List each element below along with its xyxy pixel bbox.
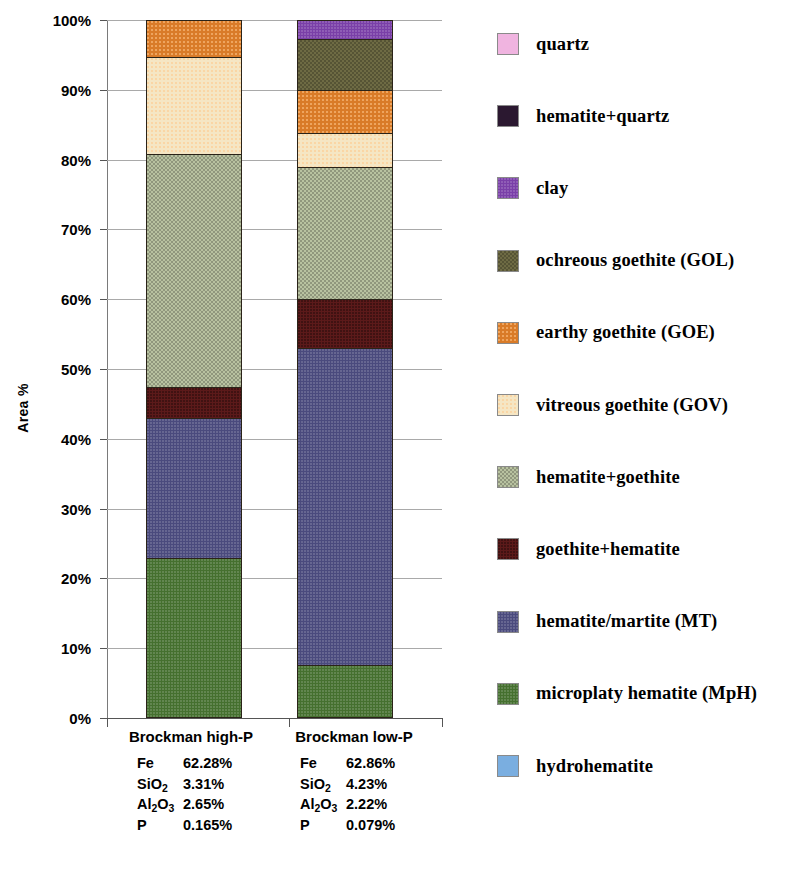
legend-item[interactable]: clay [497, 175, 568, 201]
bar-segment[interactable] [146, 418, 242, 558]
swatch-texture [498, 467, 518, 487]
y-tick-label: 100% [21, 12, 91, 29]
assay-row: Al2O32.65% [103, 794, 279, 815]
legend-item[interactable]: hematite+quartz [497, 103, 669, 129]
assay-symbol: SiO2 [300, 774, 346, 795]
legend-item[interactable]: goethite+hematite [497, 536, 680, 562]
legend-label: microplaty hematite (MpH) [536, 683, 757, 704]
y-axis-tick [100, 718, 107, 719]
y-tick-label: 40% [21, 430, 91, 447]
category-label: Brockman low-P [266, 728, 442, 745]
bar-segment[interactable] [297, 20, 393, 39]
assay-value: 3.31% [183, 774, 245, 795]
legend-label: goethite+hematite [536, 539, 680, 560]
segment-texture [147, 155, 241, 387]
y-axis-tick [100, 299, 107, 300]
assay-row: Al2O32.22% [266, 794, 442, 815]
segment-texture [298, 40, 392, 90]
segment-texture [147, 559, 241, 717]
legend-swatch-icon [497, 322, 519, 344]
y-tick-label: 0% [21, 710, 91, 727]
legend-label: hematite+goethite [536, 467, 680, 488]
assay-symbol: SiO2 [137, 774, 183, 795]
swatch-texture [498, 395, 518, 415]
bar-segment[interactable] [146, 154, 242, 387]
assay-symbol: Fe [137, 753, 183, 774]
swatch-texture [498, 251, 518, 271]
segment-texture [298, 134, 392, 167]
bar-segment[interactable] [146, 558, 242, 718]
swatch-texture [498, 178, 518, 198]
legend-item[interactable]: earthy goethite (GOE) [497, 320, 715, 346]
bar-segment[interactable] [297, 90, 393, 133]
y-axis-tick [100, 229, 107, 230]
legend-swatch-icon [497, 683, 519, 705]
swatch-texture [498, 323, 518, 343]
assay-value: 2.22% [346, 794, 408, 815]
assay-row: Fe62.86% [266, 753, 442, 774]
assay-value: 62.86% [346, 753, 408, 774]
assay-symbol: Al2O3 [137, 794, 183, 815]
legend-label: vitreous goethite (GOV) [536, 395, 728, 416]
legend-item[interactable]: quartz [497, 31, 589, 57]
segment-texture [298, 349, 392, 665]
y-tick-label: 20% [21, 570, 91, 587]
legend-label: clay [536, 178, 568, 199]
y-axis-tick [100, 369, 107, 370]
bar-segment[interactable] [297, 39, 393, 90]
plot-area: 0%10%20%30%40%50%60%70%80%90%100% [107, 20, 442, 718]
x-axis-tick-start [107, 718, 108, 727]
y-tick-label: 60% [21, 291, 91, 308]
bar-segment[interactable] [146, 387, 242, 418]
category-block-brockman-high-p: Brockman high-P Fe62.28%SiO23.31%Al2O32.… [103, 728, 279, 835]
assay-symbol: P [300, 815, 346, 836]
x-axis-tick-mid [289, 718, 290, 727]
segment-texture [298, 21, 392, 39]
legend-swatch-icon [497, 250, 519, 272]
legend-item[interactable]: hematite+goethite [497, 464, 680, 490]
bar-segment[interactable] [297, 348, 393, 665]
assay-value: 0.165% [183, 815, 245, 836]
segment-texture [147, 388, 241, 418]
assay-row: SiO23.31% [103, 774, 279, 795]
legend-label: hematite/martite (MT) [536, 611, 717, 632]
legend-swatch-icon [497, 105, 519, 127]
assay-row: P0.165% [103, 815, 279, 836]
x-axis-line [107, 718, 443, 719]
legend-item[interactable]: hydrohematite [497, 753, 653, 779]
assay-value: 4.23% [346, 774, 408, 795]
legend-label: hematite+quartz [536, 106, 669, 127]
y-tick-label: 90% [21, 81, 91, 98]
bar-segment[interactable] [146, 57, 242, 154]
legend-swatch-icon [497, 177, 519, 199]
bar-segment[interactable] [297, 133, 393, 167]
bar-segment[interactable] [297, 167, 393, 300]
legend-label: hydrohematite [536, 756, 653, 777]
legend-item[interactable]: hematite/martite (MT) [497, 609, 717, 635]
stacked-bar-brockman-low-p[interactable] [297, 20, 393, 718]
swatch-texture [498, 539, 518, 559]
y-axis-tick [100, 20, 107, 21]
legend-swatch-icon [497, 33, 519, 55]
bar-segment[interactable] [297, 299, 393, 348]
segment-texture [147, 21, 241, 57]
legend: quartzhematite+quartzclayochreous goethi… [497, 0, 797, 790]
assay-value: 2.65% [183, 794, 245, 815]
legend-swatch-icon [497, 394, 519, 416]
assay-symbol: Al2O3 [300, 794, 346, 815]
legend-label: ochreous goethite (GOL) [536, 250, 734, 271]
legend-label: quartz [536, 34, 589, 55]
legend-item[interactable]: microplaty hematite (MpH) [497, 681, 757, 707]
legend-swatch-icon [497, 466, 519, 488]
legend-label: earthy goethite (GOE) [536, 322, 715, 343]
bar-segment[interactable] [146, 20, 242, 57]
legend-item[interactable]: ochreous goethite (GOL) [497, 248, 734, 274]
swatch-texture [498, 684, 518, 704]
legend-item[interactable]: vitreous goethite (GOV) [497, 392, 728, 418]
assay-symbol: P [137, 815, 183, 836]
assay-value: 62.28% [183, 753, 245, 774]
stacked-bar-brockman-high-p[interactable] [146, 20, 242, 718]
y-tick-label: 50% [21, 361, 91, 378]
bar-segment[interactable] [297, 665, 393, 718]
assay-value: 0.079% [346, 815, 408, 836]
